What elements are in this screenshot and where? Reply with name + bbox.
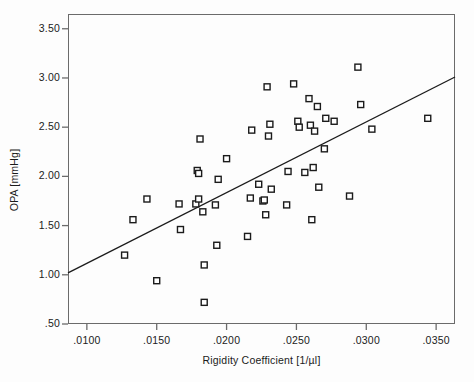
x-axis-ticks [87, 324, 436, 330]
y-tick-label: 1.00 [16, 268, 60, 280]
x-tick-label: .0250 [276, 334, 316, 346]
x-tick-label: .0300 [346, 334, 386, 346]
y-tick-label: .50 [16, 317, 60, 329]
y-axis-title-text: OPA [mmHg] [8, 149, 20, 211]
x-tick-label: .0350 [416, 334, 456, 346]
scatter-plot-figure: .0100.0150.0200.0250.0300.0350 .501.001.… [0, 0, 474, 382]
plot-frame [68, 14, 455, 324]
x-tick-label: .0150 [137, 334, 177, 346]
y-tick-label: 3.00 [16, 71, 60, 83]
y-tick-label: 3.50 [16, 22, 60, 34]
y-axis-title: OPA [mmHg] [4, 120, 26, 240]
x-axis-title: Rigidity Coefficient [1/µl] [68, 354, 455, 366]
x-tick-label: .0200 [207, 334, 247, 346]
x-tick-label: .0100 [67, 334, 107, 346]
